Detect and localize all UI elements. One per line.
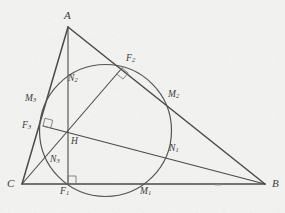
label-n3: N3 [50,155,60,165]
right-angle-at-F3 [43,118,53,128]
label-a-text: A [64,9,71,21]
label-m1-subscript: 1 [148,189,151,196]
label-n1: N1 [169,144,179,154]
label-f3-subscript: 3 [28,123,31,130]
label-m2-text: M [168,89,176,99]
label-m1: M1 [140,187,151,197]
label-b: B [272,178,279,189]
label-m2: M2 [168,90,179,100]
geometry-canvas [0,0,285,213]
label-m1-text: M [140,186,148,196]
label-b-text: B [272,177,279,189]
label-f1: F1 [60,187,69,197]
label-n2-subscript: 2 [74,76,77,83]
label-n3-subscript: 3 [56,157,59,164]
label-f3-text: F [22,120,28,130]
label-m3: M3 [25,94,36,104]
label-n1-subscript: 1 [175,146,178,153]
label-c-text: C [7,177,14,189]
label-f3: F3 [22,121,31,131]
label-h: H [71,137,78,147]
label-f1-subscript: 1 [66,189,69,196]
label-m3-subscript: 3 [33,96,36,103]
label-a: A [64,10,71,21]
label-m2-subscript: 2 [176,92,179,99]
label-f2-text: F [126,53,132,63]
label-f1-text: F [60,186,66,196]
label-n2: N2 [68,74,78,84]
label-c: C [7,178,14,189]
label-f2: F2 [126,54,135,64]
right-angle-at-F1 [68,176,76,184]
label-m3-text: M [25,93,33,103]
altitude-from-C [22,68,122,184]
label-h-text: H [71,136,78,146]
label-f2-subscript: 2 [132,56,135,63]
right-angle-markers [43,68,128,184]
nine-point-circle-figure: ABCF1F2F3M1M2M3N1N2N3H [0,0,285,213]
